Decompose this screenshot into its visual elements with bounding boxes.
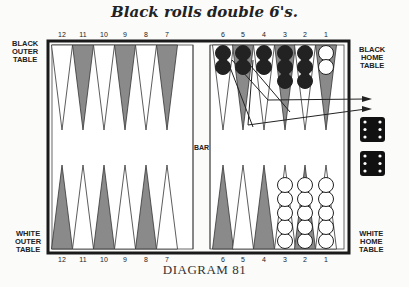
point-number-top: 5 (241, 31, 245, 38)
black-checker (216, 46, 231, 61)
white-checker (319, 178, 334, 193)
point-number-top: 12 (58, 31, 66, 38)
black-checker (236, 46, 251, 61)
arrowhead-icon (362, 106, 372, 112)
white-checker (298, 178, 313, 193)
black-checker (298, 74, 313, 89)
white-checker (278, 178, 293, 193)
diagram-caption: DIAGRAM 81 (0, 262, 409, 278)
bar-label: BAR (194, 144, 209, 151)
white-checker (319, 234, 334, 249)
white-checker (319, 60, 334, 75)
black-checker (216, 60, 231, 75)
black-checker (298, 60, 313, 75)
white-checker (278, 206, 293, 221)
white-checker (298, 220, 313, 235)
point-number-top: 7 (165, 31, 169, 38)
arrowhead-icon (362, 96, 372, 102)
die-2 (360, 151, 385, 176)
point-number-top: 9 (123, 31, 127, 38)
white-checker (319, 46, 334, 61)
white-checker (278, 234, 293, 249)
black-checker (278, 74, 293, 89)
point-number-top: 3 (283, 31, 287, 38)
white-checker (319, 206, 334, 221)
white-checker (298, 192, 313, 207)
black-checker (298, 46, 313, 61)
black-checker (278, 60, 293, 75)
backgammon-board: BAR 121211111010998877665544332211 (0, 0, 409, 287)
point-number-top: 8 (144, 31, 148, 38)
point-number-top: 2 (303, 31, 307, 38)
white-checker (298, 206, 313, 221)
point-number-top: 1 (324, 31, 328, 38)
white-checker (278, 192, 293, 207)
white-checker (319, 220, 334, 235)
die-1 (360, 117, 385, 142)
point-number-top: 4 (262, 31, 266, 38)
point-number-top: 6 (221, 31, 225, 38)
black-checker (257, 60, 272, 75)
black-checker (278, 46, 293, 61)
white-checker (319, 192, 334, 207)
point-number-top: 10 (100, 31, 108, 38)
black-checker (257, 46, 272, 61)
white-checker (278, 220, 293, 235)
white-checker (298, 234, 313, 249)
point-number-top: 11 (79, 31, 86, 38)
